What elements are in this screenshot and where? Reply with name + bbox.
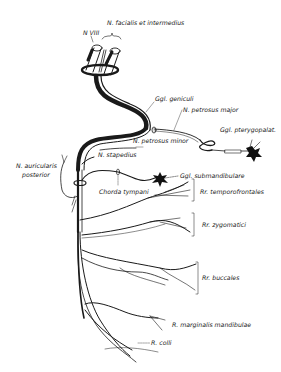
label-n-stapedius: N. stapedius xyxy=(98,152,137,158)
rr-zygomatici-path xyxy=(82,213,194,238)
rr-buccales-path xyxy=(82,250,198,294)
label-ggl-submandibulare: Ggl. submandibulare xyxy=(180,173,245,179)
label-n-petrosus-major: N. petrosus major xyxy=(183,107,238,113)
nerve-roots xyxy=(82,33,121,75)
ggl-submandibulare-shape xyxy=(152,172,168,187)
label-n-petrosus-minor: N. petrosus minor xyxy=(133,138,188,144)
label-rr-buccales: Rr. buccales xyxy=(202,275,239,281)
facial-nerve-trunk xyxy=(78,76,151,362)
n-stapedius-path xyxy=(82,157,94,164)
label-r-marginalis-mandibulae: R. marginalis mandibulae xyxy=(172,322,251,328)
label-rr-temporofrontales: Rr. temporofrontales xyxy=(200,189,264,195)
label-n-viii: N VIII xyxy=(83,30,99,36)
rr-temporofrontales-path xyxy=(80,179,194,220)
label-ggl-pterygopalat: Ggl. pterygopalat. xyxy=(220,127,276,133)
r-colli-path xyxy=(85,310,158,352)
ggl-pterygopalatinum-shape xyxy=(246,146,262,162)
label-r-colli: R. colli xyxy=(151,340,172,346)
n-petrosus-minor-path xyxy=(100,148,136,150)
label-n-facialis: N. facialis et intermedius xyxy=(107,20,184,26)
label-ggl-geniculi: Ggl. geniculi xyxy=(155,96,194,102)
facial-nerve-diagram xyxy=(0,0,281,372)
label-posterior: posterior xyxy=(22,172,50,178)
ganglia xyxy=(152,146,262,187)
label-n-auricularis: N. auricularis xyxy=(16,163,57,169)
label-chorda-tympani: Chorda tympani xyxy=(99,189,149,195)
label-rr-zygomatici: Rr. zygomatici xyxy=(202,222,246,228)
